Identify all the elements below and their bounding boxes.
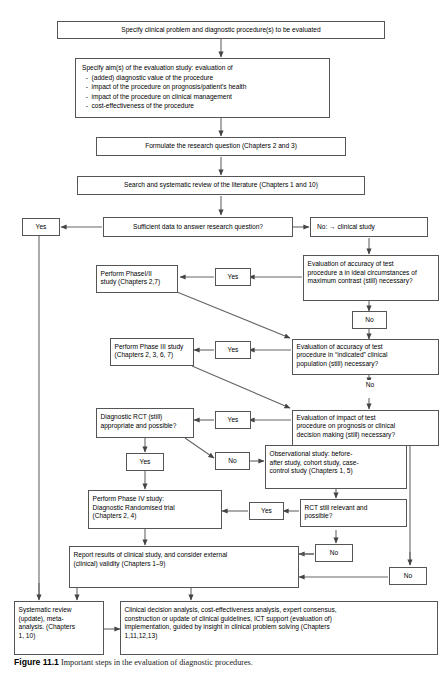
node-diagnostic-rct: Diagnostic RCT (still) appropriate and p… (96, 408, 194, 438)
node-sufficient-data: Sufficient data to answer research quest… (103, 217, 293, 237)
node-yes-phase4: Yes (249, 502, 284, 520)
node-yes-rct-down: Yes (126, 453, 164, 471)
node-no-rct-relevant: No (315, 544, 353, 562)
node-observational-study: Observational study: before- after study… (265, 445, 407, 489)
node-report-results: Report results of clinical study, and co… (69, 546, 299, 588)
node-systematic-review: Systematic review (update), meta- analys… (14, 601, 104, 655)
figure-caption-number: Figure 11.1 (14, 657, 59, 667)
node-no-after-indicated: No (360, 380, 380, 394)
node-search-review: Search and systematic review of the lite… (77, 176, 365, 195)
figure-caption: Figure 11.1 Important steps in the evalu… (14, 657, 434, 668)
node-clinical-decision: Clinical decision analysis, cost-effecti… (120, 601, 438, 655)
node-eval-accuracy-indicated: Evaluation of accuracy of test procedure… (292, 339, 439, 375)
node-no-far-right: No (389, 567, 427, 585)
node-specify-aims: Specify aim(s) of the evaluation study: … (75, 58, 330, 118)
node-perform-phase4: Perform Phase IV study: Diagnostic Rando… (88, 490, 222, 529)
node-perform-phase12: Perform PhaseI/II study (Chapters 2,7) (96, 265, 178, 293)
flowchart-figure: Specify clinical problem and diagnostic … (0, 0, 444, 673)
node-rct-relevant: RCT still relevant and possible? (300, 499, 407, 527)
node-specify-problem: Specify clinical problem and diagnostic … (57, 21, 385, 39)
node-no-rct-right: No (215, 452, 250, 470)
node-yes-phase3: Yes (215, 341, 251, 359)
node-formulate-question: Formulate the research question (Chapter… (96, 137, 346, 156)
node-eval-impact: Evaluation of impact of test procedure o… (292, 410, 439, 446)
node-yes-rct: Yes (215, 411, 251, 429)
node-no-clinical-study: No: → clinical study (310, 217, 428, 237)
node-perform-phase3: Perform Phase III study (Chapters 2, 3, … (110, 338, 194, 366)
node-eval-accuracy-ideal: Evaluation of accuracy of test procedure… (303, 255, 439, 301)
node-yes-sufficient-data: Yes (22, 218, 60, 236)
figure-caption-text: Important steps in the evaluation of dia… (61, 658, 253, 667)
node-no-after-ideal: No (352, 311, 387, 329)
node-yes-phase12: Yes (215, 268, 251, 286)
